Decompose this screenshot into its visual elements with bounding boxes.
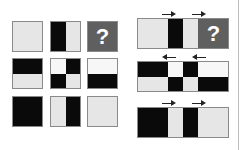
arrow-right-icon xyxy=(192,11,206,17)
arrow-right-icon xyxy=(162,11,176,17)
strip-3 xyxy=(137,107,229,138)
strip-2 xyxy=(137,61,229,92)
tile-r2c2-checker xyxy=(50,58,81,89)
tile-r3c1-solid-dark xyxy=(12,96,43,127)
arrow-left-icon xyxy=(162,54,176,60)
arrow-right-icon xyxy=(162,100,176,106)
tile-r3c2-vertical-half xyxy=(50,96,81,127)
tile-r1c1-solid-light xyxy=(12,21,43,52)
tile-r1c2-vertical-half xyxy=(50,21,81,52)
tile-r1c3-question: ? xyxy=(87,21,118,52)
question-mark: ? xyxy=(207,21,220,47)
arrow-left-icon xyxy=(192,54,206,60)
tile-r2c1-horizontal-half xyxy=(12,58,43,89)
arrow-right-icon xyxy=(192,100,206,106)
panel-divider xyxy=(238,0,239,150)
question-mark: ? xyxy=(96,24,109,50)
strip-1-question: ? xyxy=(198,19,229,48)
tile-r2c3-horizontal-half xyxy=(87,58,118,89)
tile-r3c3-solid-light xyxy=(87,96,118,127)
strip-1: ? xyxy=(137,18,229,49)
